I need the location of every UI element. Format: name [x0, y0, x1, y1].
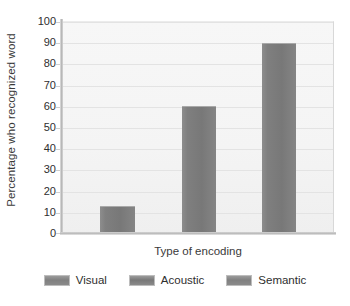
y-axis-title-text: Percentage who recognized word	[5, 33, 17, 207]
x-axis-title: Type of encoding	[62, 245, 334, 257]
y-axis-line	[60, 19, 63, 235]
legend-item-visual: Visual	[44, 274, 107, 286]
y-axis-tick-labels: 100 90 80 70 60 50 40 30 20 10 0	[26, 21, 56, 233]
legend-item-semantic: Semantic	[226, 274, 306, 286]
legend-swatch-icon	[44, 275, 70, 286]
y-tick-label: 100	[26, 16, 56, 27]
bar-chart-figure: Percentage who recognized word 100 90 80…	[0, 0, 350, 306]
y-tick-label: 50	[26, 122, 56, 133]
y-tick-label: 30	[26, 164, 56, 175]
legend-item-label: Acoustic	[161, 274, 204, 286]
legend-item-label: Semantic	[258, 274, 306, 286]
legend-item-label: Visual	[76, 274, 107, 286]
y-tick-label: 90	[26, 37, 56, 48]
bar-acoustic	[182, 106, 216, 233]
y-tick-label: 60	[26, 100, 56, 111]
legend-swatch-icon	[226, 275, 252, 286]
y-tick-label: 40	[26, 143, 56, 154]
x-axis-line	[60, 232, 336, 235]
bar-visual	[100, 206, 135, 233]
gridline-100	[62, 22, 333, 23]
y-tick-label: 80	[26, 58, 56, 69]
y-tick-label: 20	[26, 185, 56, 196]
plot-area	[62, 21, 334, 233]
y-tick-label: 70	[26, 79, 56, 90]
y-tick-label: 10	[26, 206, 56, 217]
y-tick-label: 0	[26, 228, 56, 239]
legend-item-acoustic: Acoustic	[129, 274, 204, 286]
legend-swatch-icon	[129, 275, 155, 286]
y-axis-title: Percentage who recognized word	[0, 0, 22, 240]
bar-semantic	[262, 43, 296, 233]
chart-legend: Visual Acoustic Semantic	[0, 274, 350, 286]
